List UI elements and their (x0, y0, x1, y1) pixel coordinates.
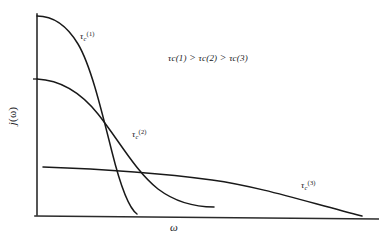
inequality-term-1-sup: (1) (176, 53, 187, 63)
x-axis (35, 216, 379, 219)
curve-1-label: τc(1) (80, 30, 95, 42)
curve-1-label-sup: (1) (87, 30, 95, 37)
curve-3-label-sup: (3) (308, 179, 316, 186)
curve-3-label: τc(3) (301, 179, 316, 191)
spectral-density-figure: τc(1) τc(2) τc(3) τc(1)>τc(2)>τc(3) j(ω)… (0, 0, 379, 244)
curve-2-label: τc(2) (132, 128, 147, 140)
curve-2-label-sup: (2) (139, 128, 147, 135)
curve-tau-c-2 (37, 79, 214, 207)
inequality-term-2-sup: (2) (206, 53, 217, 63)
inequality-relation-2: > (217, 52, 229, 63)
curve-tau-c-1 (37, 16, 137, 214)
x-axis-label: ω (170, 221, 178, 233)
inequality-annotation: τc(1)>τc(2)>τc(3) (168, 52, 248, 63)
curve-tau-c-3 (43, 167, 362, 216)
y-axis-label: j(ω) (6, 94, 18, 138)
inequality-relation-1: > (187, 52, 199, 63)
y-axis-label-base: j (6, 122, 18, 125)
plot-canvas (0, 0, 379, 244)
y-axis-label-arg: (ω) (6, 107, 18, 122)
inequality-term-3-sup: (3) (237, 53, 248, 63)
